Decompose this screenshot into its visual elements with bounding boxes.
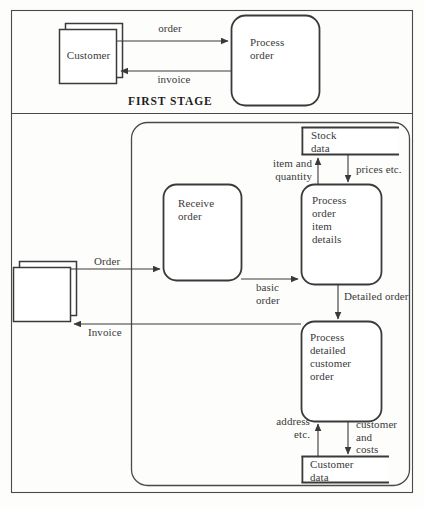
flow-label-invoice-out: Invoice xyxy=(88,326,148,339)
flow-label-item-and-quantity: item and quantity xyxy=(252,157,312,182)
flow-label-order: order xyxy=(140,22,200,35)
flow-label-basic-order: basic order xyxy=(256,281,300,306)
flow-label-customer-and-costs: customer and costs xyxy=(356,418,420,456)
process-label-process-detailed-customer-order: Process detailed customer order xyxy=(310,331,382,383)
process-label-receive-order: Receive order xyxy=(178,197,240,223)
entity-label-customer-first-stage: Customer xyxy=(60,49,117,62)
process-label-process-order: Process order xyxy=(250,36,320,62)
process-label-process-order-item-details: Process order item details xyxy=(312,194,382,246)
second-stage-customer-entity xyxy=(14,262,77,322)
flow-label-address-etc: address etc. xyxy=(248,415,310,440)
flow-label-prices-etc: prices etc. xyxy=(356,163,420,176)
flow-label-detailed-order: Detailed order xyxy=(344,290,424,303)
data-store-label-customer-data: Customer data xyxy=(310,458,390,483)
data-store-label-stock-data: Stock data xyxy=(311,129,391,154)
dfd-diagram: Customer Process order order invoice FIR… xyxy=(0,0,424,507)
flow-label-order-in: Order xyxy=(94,255,154,268)
flow-label-invoice: invoice xyxy=(144,73,204,86)
stage-label-first-stage: FIRST STAGE xyxy=(128,95,213,107)
